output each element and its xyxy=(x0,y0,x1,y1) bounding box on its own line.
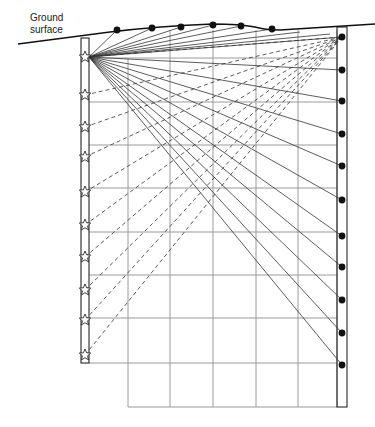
receiver-dot-icon xyxy=(339,131,346,138)
surface-receiver-dot-icon xyxy=(149,25,156,32)
receiver-dot-icon xyxy=(339,297,346,304)
receiver-dot-icon xyxy=(339,34,346,41)
receiver-dot-icon xyxy=(339,98,346,105)
surface-receiver-dot-icon xyxy=(238,23,245,30)
surface-receiver-dot-icon xyxy=(210,22,217,29)
surface-receiver-dot-icon xyxy=(178,24,185,31)
solid-ray xyxy=(89,57,342,236)
ground-surface-line xyxy=(18,24,375,44)
solid-ray xyxy=(89,57,342,333)
receiver-dot-icon xyxy=(339,330,346,337)
crosshole-tomography-diagram xyxy=(0,0,375,427)
right-borehole xyxy=(337,27,347,407)
receiver-dot-icon xyxy=(339,264,346,271)
receiver-dot-icon xyxy=(339,362,346,369)
solid-ray xyxy=(89,57,342,134)
surface-receiver-dot-icon xyxy=(114,27,121,34)
surface-receiver-dot-icon xyxy=(269,26,276,33)
receiver-dot-icon xyxy=(339,163,346,170)
solid-ray xyxy=(89,57,342,166)
receiver-dot-icon xyxy=(339,67,346,74)
receiver-dot-icon xyxy=(339,233,346,240)
receiver-dot-icon xyxy=(339,197,346,204)
solid-ray xyxy=(89,57,342,365)
